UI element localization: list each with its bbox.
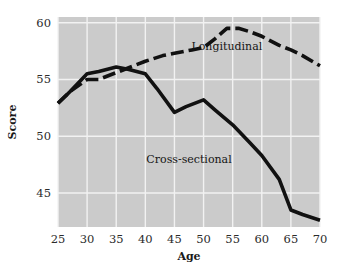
plot-area-background [58,17,320,227]
y-tick-label-60: 60 [36,16,51,30]
x-tick-label-40: 40 [138,232,153,246]
y-tick-label-55: 55 [36,72,51,86]
x-tick-label-55: 55 [225,232,240,246]
x-tick-label-25: 25 [51,232,66,246]
x-tick-label-60: 60 [254,232,269,246]
y-tick-label-50: 50 [36,129,51,143]
series-label-longitudinal: Longitudinal [191,40,262,53]
x-tick-label-70: 70 [313,232,328,246]
x-tick-label-30: 30 [80,232,95,246]
x-tick-label-50: 50 [196,232,211,246]
x-axis-title: Age [176,250,200,263]
series-label-cross-sectional: Cross-sectional [146,153,232,166]
y-axis-title: Score [6,105,19,140]
score-by-age-line-chart: 25303540455055606570 45505560 Longitudin… [0,0,338,276]
x-tick-label-65: 65 [284,232,299,246]
y-tick-label-45: 45 [36,186,51,200]
y-tick-labels: 45505560 [36,16,51,200]
x-tick-labels: 25303540455055606570 [51,232,328,246]
x-tick-label-35: 35 [109,232,124,246]
x-tick-label-45: 45 [167,232,182,246]
chart-figure: 25303540455055606570 45505560 Longitudin… [0,0,338,276]
